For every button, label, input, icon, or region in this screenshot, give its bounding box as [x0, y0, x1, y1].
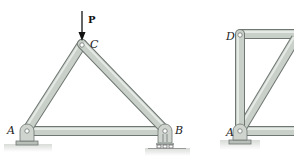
right-truss: D A — [220, 30, 294, 150]
label-a: A — [6, 124, 15, 137]
member-ac — [25, 43, 82, 130]
label-d: D — [225, 30, 235, 43]
label-b: B — [174, 124, 183, 137]
member-diagonal — [240, 37, 294, 128]
load-arrow-p — [79, 11, 86, 41]
member-cb — [82, 43, 167, 130]
member-ab — [27, 129, 165, 131]
label-p: P — [88, 14, 96, 25]
member-da — [238, 34, 240, 130]
joint-c-pin — [80, 43, 84, 47]
ground-b — [145, 148, 190, 156]
member-d-top — [240, 32, 294, 34]
member-a-bottom — [240, 129, 294, 131]
truss-diagram: P A B C — [0, 0, 294, 156]
left-truss: P A B C — [4, 11, 190, 156]
joint-d-pin — [238, 33, 242, 37]
label-a2: A — [225, 126, 234, 139]
label-c: C — [90, 38, 99, 51]
